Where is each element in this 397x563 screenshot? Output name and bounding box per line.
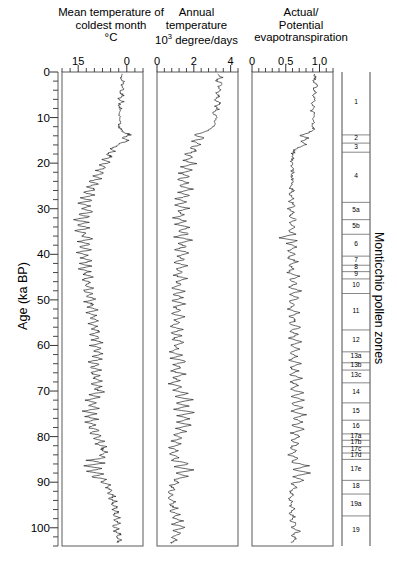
- figure-root: Mean temperature of coldest month °C Ann…: [0, 0, 397, 563]
- pollen-zone-11: 11: [342, 308, 370, 315]
- pollen-zone-16: 16: [342, 423, 370, 430]
- curve-annual-temperature: [168, 74, 223, 543]
- pollen-zone-12: 12: [342, 337, 370, 344]
- pollen-zone-18: 18: [342, 483, 370, 490]
- plot-graphics: [0, 0, 397, 563]
- pollen-zone-17e: 17e: [342, 466, 370, 473]
- curve-actual-potential-evapotranspiration: [279, 74, 318, 542]
- pollen-zone-1: 1: [342, 99, 370, 106]
- age-axis: [50, 72, 58, 546]
- pollen-zone-5b: 5b: [342, 223, 370, 230]
- pollen-zone-14: 14: [342, 389, 370, 396]
- pollen-zone-19a: 19a: [342, 501, 370, 508]
- pollen-zone-4: 4: [342, 173, 370, 180]
- pollen-zone-5a: 5a: [342, 207, 370, 214]
- pollen-zone-13c: 13c: [342, 372, 370, 379]
- pollen-zone-6: 6: [342, 241, 370, 248]
- pollen-zone-13a: 13a: [342, 353, 370, 360]
- pollen-zone-13b: 13b: [342, 362, 370, 369]
- pollen-zone-19: 19: [342, 527, 370, 534]
- pollen-zone-7: 7: [342, 257, 370, 264]
- pollen-zone-9: 9: [342, 271, 370, 278]
- pollen-zone-10: 10: [342, 282, 370, 289]
- panel-3-frame: [252, 65, 333, 546]
- curve-mean-temperature-of-coldest-month: [74, 74, 132, 542]
- pollen-zone-17d: 17d: [342, 452, 370, 459]
- pollen-zone-15: 15: [342, 408, 370, 415]
- pollen-zone-3: 3: [342, 144, 370, 151]
- pollen-zone-2: 2: [342, 135, 370, 142]
- panel-2-frame: [157, 65, 238, 546]
- pollen-zone-column: 12345a5b678910111213a13b13c14151617a17b1…: [342, 72, 370, 546]
